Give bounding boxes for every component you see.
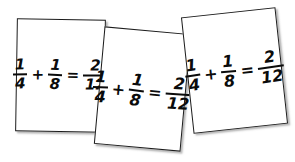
denominator: 4 xyxy=(92,88,108,106)
denominator: 8 xyxy=(47,76,62,93)
denominator: 12 xyxy=(258,66,286,87)
fraction-one-quarter: 1 4 xyxy=(13,57,28,91)
handwritten-equation: 1 4 + 1 8 = 2 12 xyxy=(186,48,282,94)
numerator: 1 xyxy=(93,69,109,87)
equals-operator: = xyxy=(63,66,82,84)
plus-operator: + xyxy=(200,63,221,84)
numerator: 1 xyxy=(48,58,63,75)
equation-card[interactable]: 1 4 + 1 8 = 2 12 xyxy=(181,7,288,134)
equals-operator: = xyxy=(144,82,165,103)
fraction-one-eighth: 1 8 xyxy=(220,53,238,90)
denominator: 8 xyxy=(127,91,144,110)
handwritten-equation: 1 4 + 1 8 = 2 12 xyxy=(98,69,186,113)
fraction-one-quarter: 1 4 xyxy=(92,69,109,106)
equation-card[interactable]: 1 4 + 1 8 = 2 12 xyxy=(94,26,191,151)
numerator: 1 xyxy=(129,72,146,91)
denominator: 4 xyxy=(185,75,203,94)
handwritten-equation: 1 4 + 1 8 = 2 12 xyxy=(17,57,105,92)
denominator: 8 xyxy=(222,72,239,90)
numerator: 1 xyxy=(13,57,28,73)
denominator: 4 xyxy=(13,75,28,91)
numerator: 1 xyxy=(220,53,237,71)
denominator: 12 xyxy=(164,94,191,113)
equals-operator: = xyxy=(237,59,258,80)
plus-operator: + xyxy=(108,78,129,99)
fraction-one-eighth: 1 8 xyxy=(127,72,147,110)
card-scene: 1 4 + 1 8 = 2 12 1 4 xyxy=(0,0,295,162)
plus-operator: + xyxy=(28,65,47,83)
fraction-one-eighth: 1 8 xyxy=(47,58,63,93)
fraction-result: 2 12 xyxy=(255,47,286,86)
equation-card[interactable]: 1 4 + 1 8 = 2 12 xyxy=(15,18,106,132)
